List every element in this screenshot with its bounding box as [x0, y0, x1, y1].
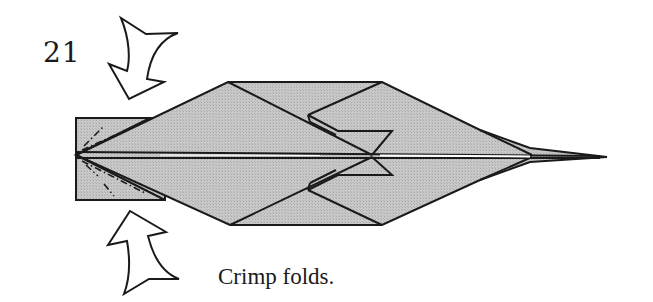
origami-diagram	[0, 0, 653, 302]
push-arrow-bottom-icon	[108, 211, 179, 294]
push-arrow-top-icon	[109, 18, 178, 99]
step-caption: Crimp folds.	[218, 264, 334, 290]
